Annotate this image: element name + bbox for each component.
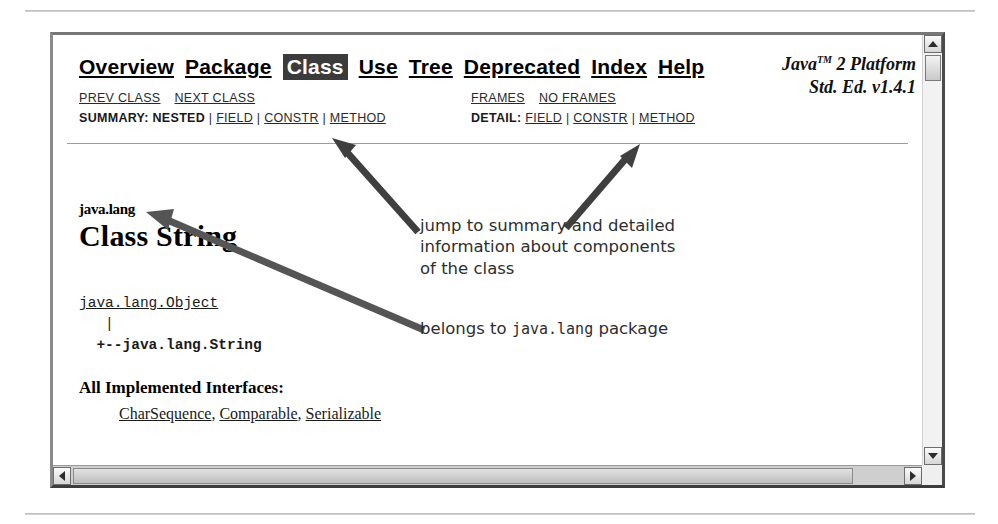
vertical-scrollbar[interactable] xyxy=(922,35,942,465)
product-title-platform: 2 Platform xyxy=(832,54,916,74)
summary-method-link[interactable]: METHOD xyxy=(330,111,386,125)
detail-field-link[interactable]: FIELD xyxy=(525,111,562,125)
product-title-line2: Std. Ed. v1.4.1 xyxy=(782,76,916,99)
scroll-up-button[interactable] xyxy=(924,35,942,53)
link-prev-class[interactable]: PREV CLASS xyxy=(79,91,161,105)
scrollbar-corner xyxy=(922,465,942,485)
summary-sep-2: | xyxy=(253,111,264,125)
product-title-line1: JavaTM 2 Platform xyxy=(782,53,916,76)
summary-field-link[interactable]: FIELD xyxy=(216,111,253,125)
product-title: JavaTM 2 Platform Std. Ed. v1.4.1 xyxy=(782,53,916,98)
implemented-interfaces-heading: All Implemented Interfaces: xyxy=(79,378,284,398)
subnav-frames-links: FRAMESNO FRAMES xyxy=(471,91,616,105)
subnav-detail-row: DETAIL: FIELD | CONSTR | METHOD xyxy=(471,111,695,125)
page-rule-top xyxy=(25,10,975,12)
link-no-frames[interactable]: NO FRAMES xyxy=(539,91,616,105)
scroll-left-button[interactable] xyxy=(53,467,71,485)
summary-sep-1: | xyxy=(205,111,216,125)
link-frames[interactable]: FRAMES xyxy=(471,91,525,105)
horizontal-scrollbar[interactable] xyxy=(53,465,922,485)
summary-label: SUMMARY: xyxy=(79,111,149,125)
nav-link-package[interactable]: Package xyxy=(185,55,272,78)
nav-link-deprecated[interactable]: Deprecated xyxy=(464,55,580,78)
triangle-down-icon xyxy=(928,453,938,459)
product-title-java: Java xyxy=(782,54,817,74)
navbar-separator xyxy=(67,143,908,144)
trademark-symbol: TM xyxy=(817,54,832,65)
nav-link-overview[interactable]: Overview xyxy=(79,55,174,78)
interface-link-charsequence[interactable]: CharSequence xyxy=(119,405,211,422)
class-title: Class String xyxy=(79,219,237,253)
summary-nested: NESTED xyxy=(153,111,206,125)
summary-sep-3: | xyxy=(319,111,330,125)
scroll-right-button[interactable] xyxy=(904,467,922,485)
horizontal-scroll-thumb[interactable] xyxy=(73,468,853,484)
summary-constr-link[interactable]: CONSTR xyxy=(264,111,319,125)
subnav-class-links: PREV CLASSNEXT CLASS xyxy=(79,91,255,105)
javadoc-document: OverviewPackageClassUseTreeDeprecatedInd… xyxy=(53,35,922,465)
class-hierarchy: java.lang.Object | +--java.lang.String xyxy=(79,293,262,356)
hierarchy-parent-link[interactable]: java.lang.Object xyxy=(79,295,218,311)
link-next-class[interactable]: NEXT CLASS xyxy=(175,91,256,105)
nav-link-help[interactable]: Help xyxy=(658,55,704,78)
triangle-left-icon xyxy=(59,471,65,481)
hierarchy-pipe: | xyxy=(79,316,114,332)
triangle-up-icon xyxy=(928,41,938,47)
browser-window-inner: OverviewPackageClassUseTreeDeprecatedInd… xyxy=(53,35,942,485)
detail-sep-2: | xyxy=(628,111,639,125)
subnav-summary-row: SUMMARY: NESTED | FIELD | CONSTR | METHO… xyxy=(79,111,386,125)
browser-window: OverviewPackageClassUseTreeDeprecatedInd… xyxy=(50,32,945,488)
nav-link-use[interactable]: Use xyxy=(359,55,398,78)
interface-link-comparable[interactable]: Comparable xyxy=(219,405,297,422)
javadoc-navbar: OverviewPackageClassUseTreeDeprecatedInd… xyxy=(79,55,715,79)
scroll-down-button[interactable] xyxy=(924,447,942,465)
implemented-interfaces-list: CharSequence, Comparable, Serializable xyxy=(119,405,381,423)
package-name: java.lang xyxy=(79,201,135,218)
triangle-right-icon xyxy=(910,471,916,481)
vertical-scroll-thumb[interactable] xyxy=(925,55,941,81)
detail-label: DETAIL: xyxy=(471,111,521,125)
detail-sep-1: | xyxy=(562,111,573,125)
hierarchy-current-class: +--java.lang.String xyxy=(79,337,262,353)
detail-constr-link[interactable]: CONSTR xyxy=(573,111,628,125)
nav-link-class[interactable]: Class xyxy=(283,54,348,80)
impl-sep-2: , xyxy=(298,405,306,422)
nav-link-tree[interactable]: Tree xyxy=(409,55,453,78)
detail-method-link[interactable]: METHOD xyxy=(639,111,695,125)
nav-link-index[interactable]: Index xyxy=(591,55,647,78)
page-rule-bottom xyxy=(25,513,975,515)
interface-link-serializable[interactable]: Serializable xyxy=(306,405,382,422)
